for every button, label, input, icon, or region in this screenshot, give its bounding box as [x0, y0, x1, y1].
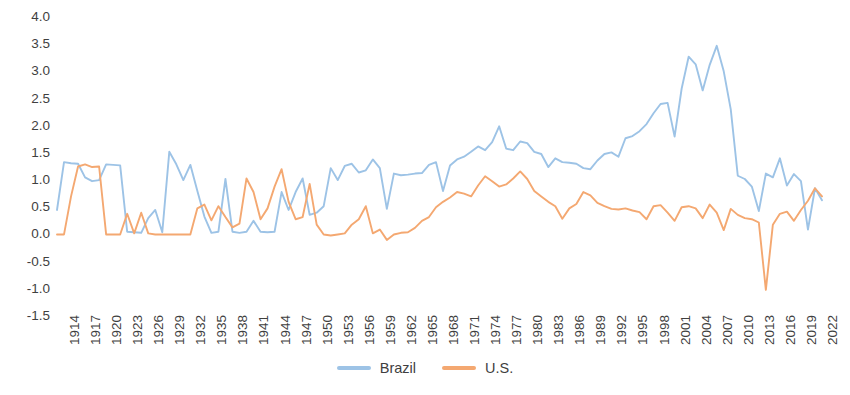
y-axis: 4.03.53.02.52.01.51.00.50.0-0.5-1.0-1.5	[0, 0, 50, 395]
legend-swatch-icon	[442, 366, 476, 370]
y-tick-label: 1.5	[2, 146, 50, 160]
x-tick-label: 1980	[531, 315, 545, 345]
x-tick-label: 1926	[152, 315, 166, 345]
y-tick-label: 2.0	[2, 119, 50, 133]
x-tick-label: 2004	[700, 315, 714, 345]
x-tick-label: 1974	[489, 315, 503, 345]
chart-legend: BrazilU.S.	[0, 352, 850, 384]
x-tick-label: 1998	[658, 315, 672, 345]
x-tick-label: 1923	[131, 315, 145, 345]
x-tick-label: 1983	[552, 315, 566, 345]
x-tick-label: 1986	[573, 315, 587, 345]
legend-label: Brazil	[380, 360, 416, 376]
x-tick-label: 1932	[194, 315, 208, 345]
x-tick-label: 1944	[279, 315, 293, 345]
y-tick-label: 3.0	[2, 64, 50, 78]
x-tick-label: 2022	[826, 315, 840, 345]
legend-item[interactable]: U.S.	[442, 360, 513, 376]
x-tick-label: 1914	[68, 315, 82, 345]
x-tick-label: 1950	[321, 315, 335, 345]
x-tick-label: 1941	[257, 315, 271, 345]
x-tick-label: 2016	[784, 315, 798, 345]
x-tick-label: 1929	[173, 315, 187, 345]
legend-label: U.S.	[485, 360, 513, 376]
y-tick-label: -1.5	[2, 309, 50, 323]
x-tick-label: 2001	[679, 315, 693, 345]
y-tick-label: -1.0	[2, 282, 50, 296]
x-tick-label: 1962	[405, 315, 419, 345]
y-tick-label: 1.0	[2, 173, 50, 187]
y-tick-label: -0.5	[2, 255, 50, 269]
y-tick-label: 3.5	[2, 37, 50, 51]
x-tick-label: 1947	[300, 315, 314, 345]
x-tick-label: 1956	[363, 315, 377, 345]
x-tick-label: 1968	[447, 315, 461, 345]
x-tick-label: 2010	[742, 315, 756, 345]
x-tick-label: 1935	[215, 315, 229, 345]
x-tick-label: 1920	[110, 315, 124, 345]
x-axis: 1914191719201923192619291932193519381941…	[57, 253, 822, 323]
x-tick-label: 1953	[342, 315, 356, 345]
y-tick-label: 2.5	[2, 92, 50, 106]
x-tick-label: 1995	[636, 315, 650, 345]
y-tick-label: 0.5	[2, 200, 50, 214]
y-tick-label: 0.0	[2, 227, 50, 241]
x-tick-label: 1977	[510, 315, 524, 345]
x-tick-label: 2007	[721, 315, 735, 345]
x-tick-label: 1959	[384, 315, 398, 345]
legend-swatch-icon	[337, 366, 371, 370]
x-tick-label: 1992	[615, 315, 629, 345]
x-tick-label: 1938	[236, 315, 250, 345]
line-chart: 4.03.53.02.52.01.51.00.50.0-0.5-1.0-1.5 …	[0, 0, 850, 395]
x-tick-label: 2019	[805, 315, 819, 345]
x-tick-label: 2013	[763, 315, 777, 345]
legend-item[interactable]: Brazil	[337, 360, 416, 376]
x-tick-label: 1917	[89, 315, 103, 345]
x-tick-label: 1989	[594, 315, 608, 345]
x-tick-label: 1971	[468, 315, 482, 345]
y-tick-label: 4.0	[2, 10, 50, 24]
x-tick-label: 1965	[426, 315, 440, 345]
